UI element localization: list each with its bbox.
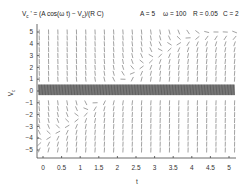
x-tick-label: 0.5 [57, 164, 66, 171]
y-tick-label: −1 [26, 99, 34, 106]
param-c: C = 2 [223, 10, 239, 17]
y-tick-label: −2 [26, 111, 34, 118]
x-tick-label: 1 [78, 164, 82, 171]
svg-text:Vc: Vc [7, 89, 16, 96]
param-a: A = 5 [140, 10, 155, 17]
y-tick-label: 4 [29, 40, 33, 47]
y-tick-label: −3 [26, 123, 34, 130]
y-axis-label: Vc [7, 89, 16, 96]
y-tick-label: 3 [29, 52, 33, 59]
x-tick-label: 3.5 [169, 164, 178, 171]
y-tick-label: −5 [26, 146, 34, 153]
x-tick-label: 4 [190, 164, 194, 171]
x-tick-label: 2 [116, 164, 120, 171]
y-tick-label: −4 [26, 134, 34, 141]
y-tick-label: 2 [29, 64, 33, 71]
x-tick-label: 5 [227, 164, 231, 171]
x-tick-label: 2.5 [131, 164, 140, 171]
param-omega: ω = 100 [163, 10, 187, 17]
y-tick-label: 0 [29, 87, 33, 94]
y-tick-label: 1 [29, 75, 33, 82]
x-tick-label: 4.5 [206, 164, 215, 171]
x-axis-label: t [136, 178, 138, 185]
equation-title: Vc ' = (A cos(ω t) − Vc)/(R C) [22, 10, 104, 19]
x-tick-label: 3 [153, 164, 157, 171]
x-tick-label: 1.5 [94, 164, 103, 171]
param-r: R = 0.05 [193, 10, 218, 17]
dense-oscillation-band [39, 85, 235, 96]
x-tick-label: 0 [41, 164, 45, 171]
y-tick-label: 5 [29, 28, 33, 35]
slope-field-chart: Vc ' = (A cos(ω t) − Vc)/(R C) A = 5 ω =… [0, 0, 249, 190]
